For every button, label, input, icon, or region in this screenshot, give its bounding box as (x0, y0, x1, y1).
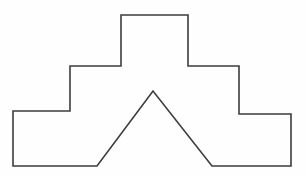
figure-canvas (0, 0, 306, 177)
canvas-background (0, 0, 306, 177)
